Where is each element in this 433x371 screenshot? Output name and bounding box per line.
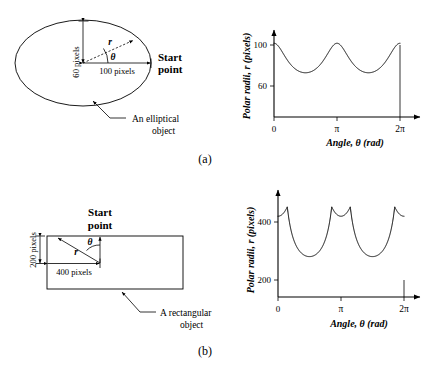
theta-arc [104,49,109,64]
chart-a-xticklabel-0: 0 [272,124,277,134]
rect-caption-line2: object [180,320,204,330]
ellipse-diagram: 60 pixels 100 pixels r θ Start point An … [15,20,183,136]
chart-b-xlabel: Angle, θ (rad) [329,318,388,330]
rect-radius-vector [58,238,100,263]
chart-a-xticklabel-2pi: 2π [395,124,405,134]
chart-b-xticklabel-2pi: 2π [399,304,409,314]
half-height-label: 200 pixels [28,232,38,268]
chart-a-yticklabel-60: 60 [258,81,268,91]
chart-b-ylabel: Polar radii, r (pixels) [245,207,257,294]
rect-start-point-line1: Start [88,206,112,218]
chart-a-ylabel: Polar radii, r (pixels) [241,33,253,120]
rect-start-point-line2: point [88,219,113,231]
rectangle-signature-chart: 400 200 0 π 2π Polar radii, r (pixels) A… [245,190,420,330]
chart-b-xticklabel-0: 0 [276,304,281,314]
chart-a-yticklabel-100: 100 [254,40,268,50]
rect-caption-line1: A rectangular [160,308,212,318]
rect-leader-line [122,292,140,312]
figure-root: 60 pixels 100 pixels r θ Start point An … [0,0,433,371]
ellipse-caption-line1: An elliptical [132,114,180,124]
radius-symbol-label: r [108,36,112,47]
chart-a-xticklabel-pi: π [335,124,340,134]
figure-svg: 60 pixels 100 pixels r θ Start point An … [0,0,433,371]
rectangle-diagram: 200 pixels 400 pixels r θ Start point A … [28,206,212,330]
chart-b-xticklabel-pi: π [339,304,344,314]
chart-a-data-curve [274,43,400,72]
start-point-label-line1: Start [158,51,182,63]
half-width-label: 400 pixels [56,267,92,277]
chart-b-data-curve [278,207,404,257]
chart-b-yticklabel-200: 200 [258,275,272,285]
theta-symbol-label: θ [111,51,116,62]
panel-label-b: (b) [198,344,212,358]
rect-theta-symbol-label: θ [88,236,93,247]
semi-major-label: 100 pixels [99,66,135,76]
semi-minor-label: 60 pixels [71,46,81,78]
ellipse-caption-line2: object [152,126,176,136]
ellipse-signature-chart: 100 60 0 π 2π Polar radii, r (pixels) An… [241,30,420,149]
chart-b-yticklabel-400: 400 [258,217,272,227]
panel-label-a: (a) [198,152,211,166]
rect-radius-symbol-label: r [74,246,78,257]
start-point-label-line2: point [158,63,183,75]
chart-a-xlabel: Angle, θ (rad) [325,137,384,149]
